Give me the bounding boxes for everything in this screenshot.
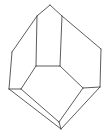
crystal-edge-outer_right-inner_right [83,87,100,88]
crystal-edge-top-top_right [50,5,62,16]
crystal-edge-mid_left-inner_left [21,66,36,89]
crystal-edge-top_right-right [62,16,101,49]
crystal-edge-top-top_left [37,5,50,16]
crystal-edge-inner_left-inner_bottom [21,89,59,122]
crystal-edge-right-outer_right [100,49,101,87]
crystal-edge-outer_left-outer_bottom [9,89,61,129]
crystal-edge-top_left-left [12,16,37,52]
crystal-edge-mid_right-inner_right [60,66,83,88]
crystal-edge-outer_right-outer_bottom [61,87,100,129]
crystal-edge-inner_right-inner_bottom [59,88,83,122]
crystal-edge-left-outer_left [9,52,12,89]
crystal-diagram [0,0,108,130]
crystal-edge-top_left-mid_left [36,16,37,66]
crystal-edge-top_right-mid_right [60,16,62,66]
